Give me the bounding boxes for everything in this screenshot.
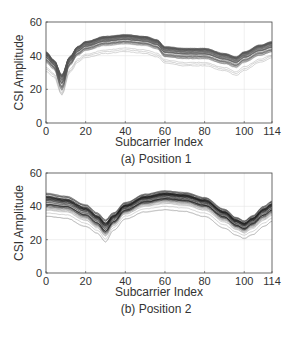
- y-axis-label: CSI Amplitude: [12, 185, 26, 261]
- figure-canvas: 0204060801001140204060Subcarrier IndexCS…: [0, 0, 295, 339]
- figure: 0204060801001140204060Subcarrier IndexCS…: [0, 0, 295, 339]
- x-tick-label: 100: [235, 275, 253, 287]
- y-tick-label: 0: [36, 267, 42, 279]
- y-tick-label: 0: [36, 117, 42, 129]
- x-tick-label: 20: [80, 125, 92, 137]
- x-axis-label: Subcarrier Index: [115, 135, 203, 149]
- y-tick-label: 40: [30, 200, 42, 212]
- x-tick-label: 114: [263, 275, 281, 287]
- subplot-caption: (b) Position 2: [121, 302, 192, 316]
- x-tick-label: 0: [43, 125, 49, 137]
- y-tick-label: 40: [30, 50, 42, 62]
- x-axis-label: Subcarrier Index: [115, 285, 203, 299]
- x-tick-label: 114: [263, 125, 281, 137]
- chart-position-1: 0204060801001140204060Subcarrier IndexCS…: [12, 16, 281, 166]
- x-tick-label: 100: [235, 125, 253, 137]
- y-tick-label: 60: [30, 167, 42, 179]
- y-tick-label: 60: [30, 16, 42, 28]
- y-tick-label: 20: [30, 83, 42, 95]
- x-tick-label: 20: [80, 275, 92, 287]
- subplot-caption: (a) Position 1: [121, 152, 192, 166]
- y-axis-label: CSI Amplitude: [12, 34, 26, 110]
- chart-position-2: 0204060801001140204060Subcarrier IndexCS…: [12, 167, 281, 316]
- csi-traces: [46, 191, 272, 243]
- y-tick-label: 20: [30, 234, 42, 246]
- csi-traces: [46, 34, 272, 95]
- x-tick-label: 0: [43, 275, 49, 287]
